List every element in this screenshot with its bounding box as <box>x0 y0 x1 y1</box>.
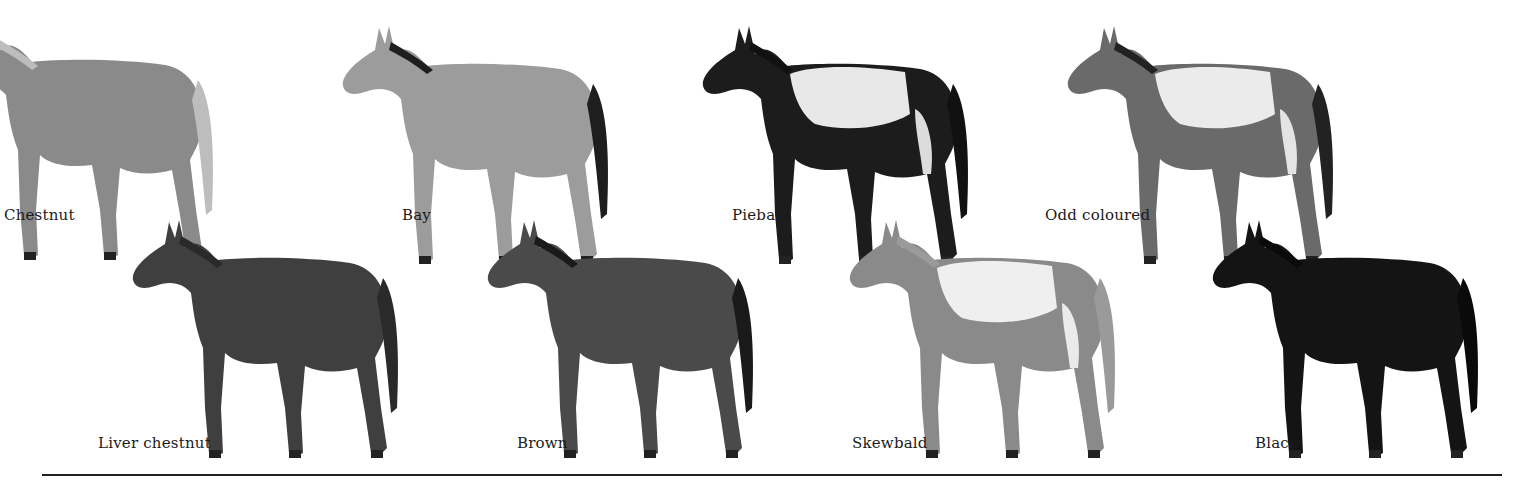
caption-black: Black <box>1255 434 1298 452</box>
horse-illustration-black <box>1205 208 1524 478</box>
caption-skewbald: Skewbald <box>852 434 928 452</box>
caption-chestnut: Chestnut <box>4 206 75 224</box>
caption-brown: Brown <box>517 434 568 452</box>
bottom-rule <box>42 474 1502 476</box>
caption-liver-chestnut: Liver chestnut <box>98 434 211 452</box>
